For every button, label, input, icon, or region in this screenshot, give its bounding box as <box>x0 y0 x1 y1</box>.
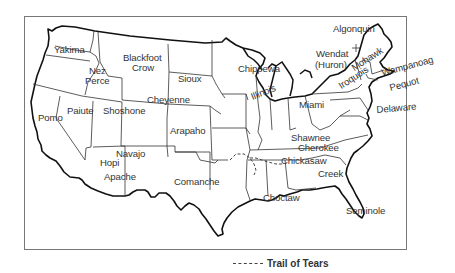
dashed-line-swatch <box>233 263 263 264</box>
us-map <box>0 0 455 273</box>
tribe-label: Crow <box>132 63 154 73</box>
tribe-label: Chippewa <box>238 64 280 74</box>
tribe-label: Cherokee <box>298 143 339 153</box>
tribe-label: Creek <box>318 169 343 179</box>
tribe-label: Choctaw <box>263 193 300 203</box>
tribe-label: Algonquin <box>333 24 375 34</box>
tribe-label: Apache <box>104 172 136 182</box>
tribe-label: Hopi <box>100 158 119 168</box>
map-frame-border <box>25 17 186 241</box>
tribe-label: Shoshone <box>103 106 145 116</box>
frame-border <box>25 17 186 242</box>
legend-trail-label: Trail of Tears <box>267 258 329 269</box>
legend: Trail of Tears <box>233 258 329 269</box>
tribe-label: Wendat <box>316 49 348 59</box>
tribe-label: Arapaho <box>170 126 206 136</box>
tribe-label: Paiute <box>67 106 94 116</box>
tribe-label: Seminole <box>346 206 385 216</box>
tribe-label: Comanche <box>174 177 220 187</box>
trail-of-tears-line <box>230 154 282 175</box>
tribe-label: Navajo <box>116 149 145 159</box>
tribe-label: Yakima <box>54 45 85 55</box>
tribe-label: Cheyenne <box>147 95 190 105</box>
tribe-label: (Huron) <box>315 60 347 70</box>
tribe-label: Perce <box>85 76 110 86</box>
tribe-label: Chickasaw <box>281 156 327 166</box>
tribe-label: Pomo <box>38 113 63 123</box>
tribe-label: Miami <box>299 100 324 110</box>
tribe-label: Sioux <box>178 74 202 84</box>
